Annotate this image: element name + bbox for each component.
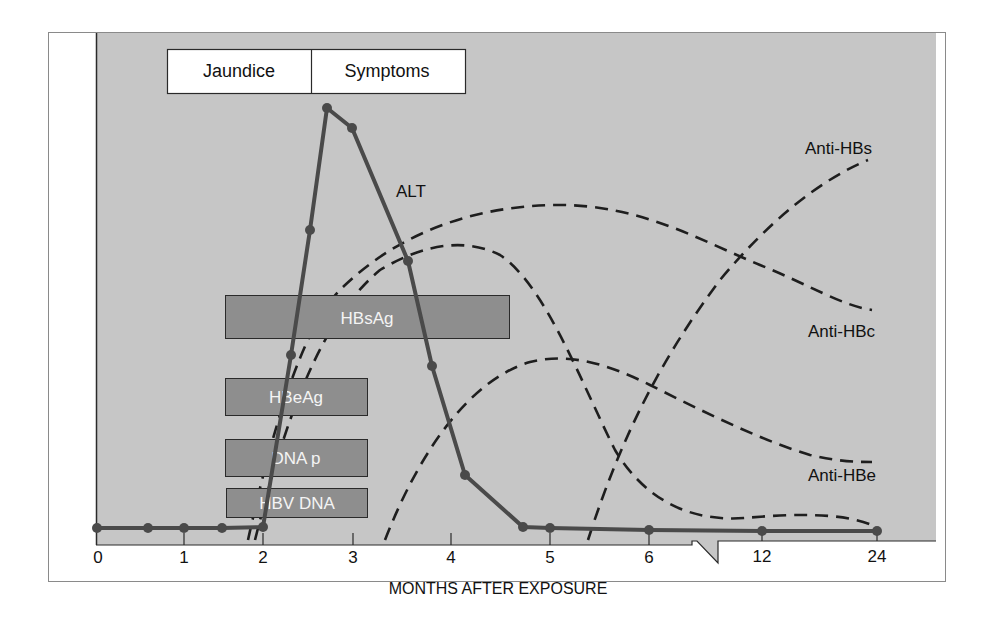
tick-label: 5 xyxy=(545,548,554,567)
x-axis-label: MONTHS AFTER EXPOSURE xyxy=(389,580,608,597)
hepatitis-b-chart: 0 1 2 3 4 5 6 12 24 MONTHS AFTER EXPOSUR… xyxy=(0,0,981,636)
tick-label: 1 xyxy=(179,548,188,567)
symptoms-label: Symptoms xyxy=(344,61,429,81)
anti-hbc-label: Anti-HBc xyxy=(808,322,876,341)
alt-label: ALT xyxy=(396,182,426,201)
dnap-label: DNA p xyxy=(271,449,320,468)
anti-hbs-label: Anti-HBs xyxy=(805,139,872,158)
tick-label: 2 xyxy=(258,548,267,567)
phase-box: Jaundice Symptoms xyxy=(168,50,466,94)
anti-hbe-label: Anti-HBe xyxy=(808,466,876,485)
hbsag-label: HBsAg xyxy=(341,309,394,328)
tick-label: 12 xyxy=(753,547,772,566)
hbvdna-label: HBV DNA xyxy=(259,494,335,513)
jaundice-label: Jaundice xyxy=(203,61,275,81)
tick-label: 4 xyxy=(446,548,455,567)
tick-label: 24 xyxy=(868,547,887,566)
tick-label: 0 xyxy=(93,548,102,567)
tick-label: 6 xyxy=(644,548,653,567)
hbeag-label: HBeAg xyxy=(269,388,323,407)
tick-label: 3 xyxy=(348,548,357,567)
